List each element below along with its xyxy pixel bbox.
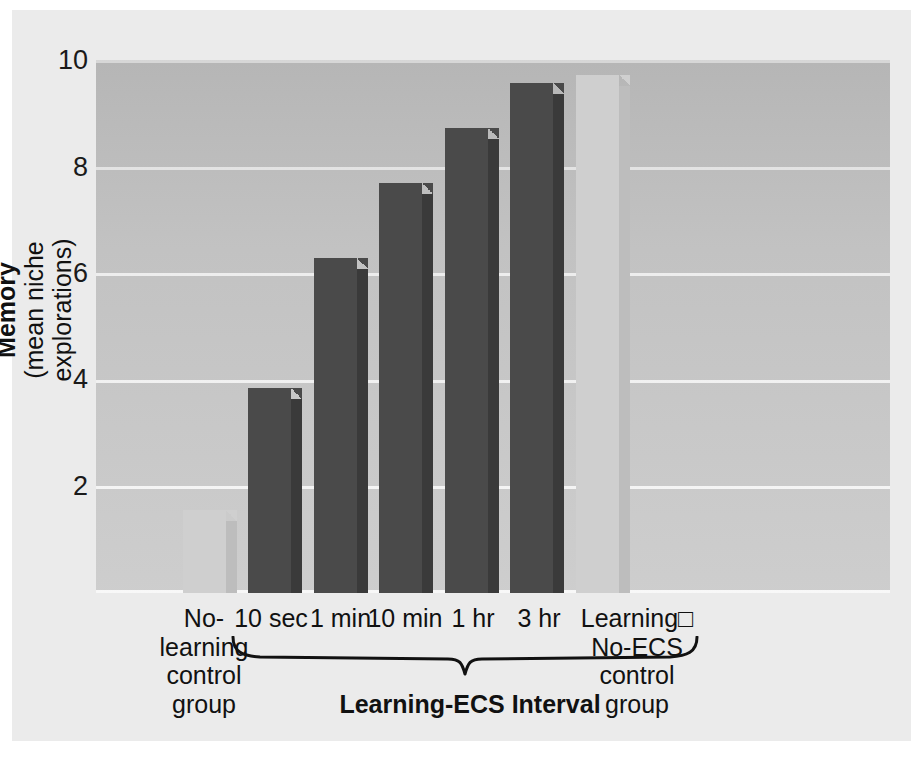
brace-icon xyxy=(230,636,700,676)
y-tick-10: 10 xyxy=(36,45,88,76)
x-axis-title: Learning-ECS Interval xyxy=(330,690,610,719)
bar-top-bevel xyxy=(619,75,630,86)
bar-side xyxy=(226,521,237,593)
bar-10-sec[interactable] xyxy=(248,388,291,593)
bar-10-min[interactable] xyxy=(379,183,422,593)
bar-side xyxy=(619,86,630,593)
bar-top-bevel xyxy=(357,258,368,269)
bar-face xyxy=(183,510,226,593)
figure-root: 10 8 6 4 2 Memory (mean niche exploratio… xyxy=(0,0,923,761)
plot-area xyxy=(96,60,890,593)
bar-face xyxy=(379,183,422,593)
bar-top-bevel xyxy=(226,510,237,521)
bar-no-learning-control[interactable] xyxy=(183,510,226,593)
bar-side xyxy=(291,399,302,593)
bar-side xyxy=(357,269,368,593)
bar-3-hr[interactable] xyxy=(510,83,553,593)
bar-side xyxy=(553,94,564,593)
x-label-line1: Learning□ xyxy=(532,604,742,633)
gridline-10 xyxy=(96,60,890,63)
learning-ecs-interval-brace xyxy=(230,636,700,676)
bar-1-hr[interactable] xyxy=(445,128,488,593)
bar-top-bevel xyxy=(291,388,302,399)
bar-1-min[interactable] xyxy=(314,258,357,593)
bar-top-bevel xyxy=(553,83,564,94)
bar-face xyxy=(248,388,291,593)
y-axis-title-main: Memory xyxy=(0,180,20,440)
bar-face xyxy=(576,75,619,593)
bar-learning-no-ecs-control[interactable] xyxy=(576,75,619,593)
y-axis-title-sub: (mean niche explorations) xyxy=(20,180,76,440)
bar-side xyxy=(422,194,433,593)
x-label-line4: group xyxy=(134,690,274,719)
y-tick-8: 8 xyxy=(36,152,88,183)
bar-top-bevel xyxy=(422,183,433,194)
bar-top-bevel xyxy=(488,128,499,139)
bar-face xyxy=(510,83,553,593)
bar-face xyxy=(314,258,357,593)
bar-face xyxy=(445,128,488,593)
y-tick-2: 2 xyxy=(36,471,88,502)
bar-side xyxy=(488,139,499,593)
